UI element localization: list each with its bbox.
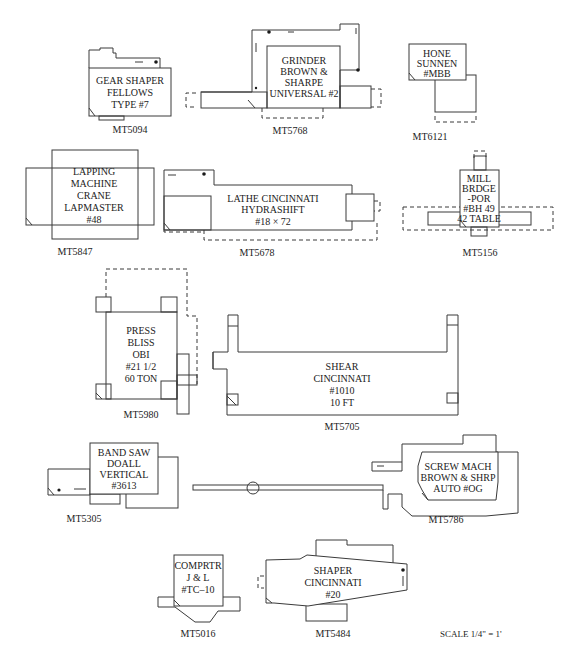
svg-text:VERTICAL: VERTICAL [100,469,149,480]
svg-text:MT6121: MT6121 [413,131,448,142]
svg-text:10 FT: 10 FT [330,397,354,408]
svg-text:DOALL: DOALL [107,458,141,469]
svg-text:MACHINE: MACHINE [71,178,118,189]
machine-shear: SHEAR CINCINNATI #1010 10 FT MT5705 [213,315,458,432]
svg-text:SHARPE: SHARPE [285,77,323,88]
svg-text:BROWN &: BROWN & [280,66,328,77]
svg-text:CINCINNATI: CINCINNATI [304,577,361,588]
floor-plan-diagram: GEAR SHAPER FELLOWS TYPE #7 MT5094 GRIND… [0,0,568,656]
svg-text:60 TON: 60 TON [125,373,158,384]
svg-text:CRANE: CRANE [77,190,111,201]
svg-text:MT5768: MT5768 [273,125,308,136]
machine-lapping: LAPPING MACHINE CRANE LAPMASTER #48 MT58… [26,150,154,257]
svg-text:42 TABLE: 42 TABLE [457,213,501,224]
machine-band-saw: BAND SAW DOALL VERTICAL #3613 MT5305 [48,443,178,524]
svg-text:OBI: OBI [132,349,149,360]
svg-text:MT5980: MT5980 [124,409,159,420]
svg-text:UNIVERSAL #2: UNIVERSAL #2 [270,88,339,99]
svg-text:SCREW MACH: SCREW MACH [425,461,492,472]
svg-text:#48: #48 [87,214,102,225]
svg-text:LATHE CINCINNATI: LATHE CINCINNATI [227,193,318,204]
machine-lathe: LATHE CINCINNATI HYDRASHIFT #18 × 72 MT5… [164,170,380,258]
svg-text:#MBB: #MBB [423,68,451,79]
machine-grinder: GRINDER BROWN & SHARPE UNIVERSAL #2 MT57… [186,24,381,136]
svg-text:#18 × 72: #18 × 72 [255,216,291,227]
svg-text:J & L: J & L [187,572,210,583]
svg-text:SHEAR: SHEAR [326,361,359,372]
machine-gear-shaper: GEAR SHAPER FELLOWS TYPE #7 MT5094 [89,48,171,135]
svg-text:MT5705: MT5705 [325,421,360,432]
machine-press: PRESS BLISS OBI #21 1/2 60 TON MT5980 [96,269,197,420]
svg-text:BROWN & SHRP: BROWN & SHRP [420,472,495,483]
svg-text:PRESS: PRESS [126,325,155,336]
bar-support-icon [247,482,259,494]
svg-text:CINCINNATI: CINCINNATI [313,373,370,384]
machine-comparator: COMPRTR J & L #TC–10 MT5016 [158,555,240,639]
svg-text:BAND SAW: BAND SAW [98,447,151,458]
svg-text:COMPRTR: COMPRTR [174,560,222,571]
svg-text:MT5156: MT5156 [463,247,498,258]
svg-text:MT5016: MT5016 [181,628,216,639]
machine-hone: HONE SUNNEN #MBB MT6121 [409,44,476,142]
svg-text:MT5305: MT5305 [67,513,102,524]
svg-text:#21 1/2: #21 1/2 [126,361,156,372]
scale-label: SCALE 1/4" = 1' [440,629,502,639]
machine-label-line: GEAR SHAPER [96,75,164,86]
operator-dot-icon [154,60,158,64]
svg-text:BLISS: BLISS [127,337,154,348]
svg-text:#1010: #1010 [330,385,355,396]
machine-label-line: FELLOWS [107,87,153,98]
machine-screw-machine: SCREW MACH BROWN & SHRP AUTO #OG MT5786 [193,435,518,525]
svg-text:AUTO #OG: AUTO #OG [433,483,483,494]
bar-feed-tube [193,485,383,490]
svg-text:#20: #20 [326,589,341,600]
svg-text:#TC–10: #TC–10 [182,584,215,595]
machine-mill: MILL BRDGE -POR #BH 49 42 TABLE MT5156 [403,151,553,258]
svg-text:#3613: #3613 [112,480,137,491]
machine-tag: MT5094 [113,124,148,135]
svg-text:HYDRASHIFT: HYDRASHIFT [241,204,304,215]
svg-text:LAPMASTER: LAPMASTER [64,202,124,213]
svg-text:LAPPING: LAPPING [73,166,115,177]
machine-label-line: TYPE #7 [111,99,149,110]
svg-text:MT5847: MT5847 [58,246,93,257]
svg-text:MT5678: MT5678 [240,247,275,258]
svg-text:SHAPER: SHAPER [314,565,353,576]
svg-text:MT5786: MT5786 [429,514,464,525]
machine-shaper: SHAPER CINCINNATI #20 MT5484 [258,540,407,639]
svg-text:MT5484: MT5484 [316,628,351,639]
svg-text:GRINDER: GRINDER [282,55,327,66]
